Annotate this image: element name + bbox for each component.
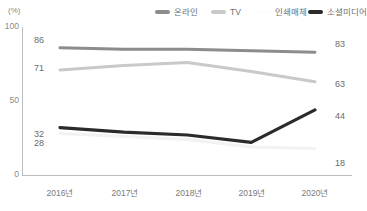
- series-line-online: [60, 48, 315, 53]
- series-line-social-media: [60, 110, 315, 142]
- series-line-tv: [60, 63, 315, 82]
- series-lines: [60, 48, 315, 149]
